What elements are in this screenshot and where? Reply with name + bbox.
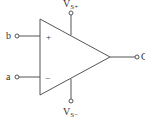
output-label: C: [141, 51, 145, 62]
minus-sign: −: [45, 73, 50, 83]
input-a-label: a: [6, 71, 11, 82]
vs-plus-terminal: [69, 11, 73, 15]
output-terminal: [135, 55, 139, 59]
vs-minus-label: VS−: [63, 106, 78, 119]
plus-sign: +: [46, 32, 51, 42]
op-amp-triangle: [40, 19, 110, 95]
op-amp-diagram: b + a − C VS+ VS−: [0, 0, 145, 122]
input-b-terminal: [15, 34, 19, 38]
vs-minus-terminal: [69, 99, 73, 103]
input-a-terminal: [15, 75, 19, 79]
input-b-label: b: [6, 30, 11, 41]
vs-plus-label: VS+: [63, 0, 78, 11]
